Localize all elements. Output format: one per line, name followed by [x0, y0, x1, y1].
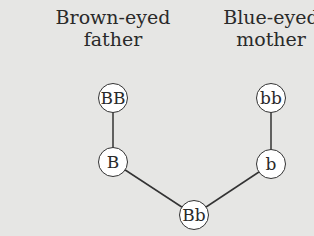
mother-genotype-node: bb	[256, 83, 286, 113]
offspring-genotype-node: Bb	[179, 200, 209, 230]
father-gamete-node: B	[98, 147, 128, 177]
father-genotype-node: BB	[98, 83, 128, 113]
mother-gamete-node: b	[256, 149, 286, 179]
connector-lines	[0, 0, 314, 236]
